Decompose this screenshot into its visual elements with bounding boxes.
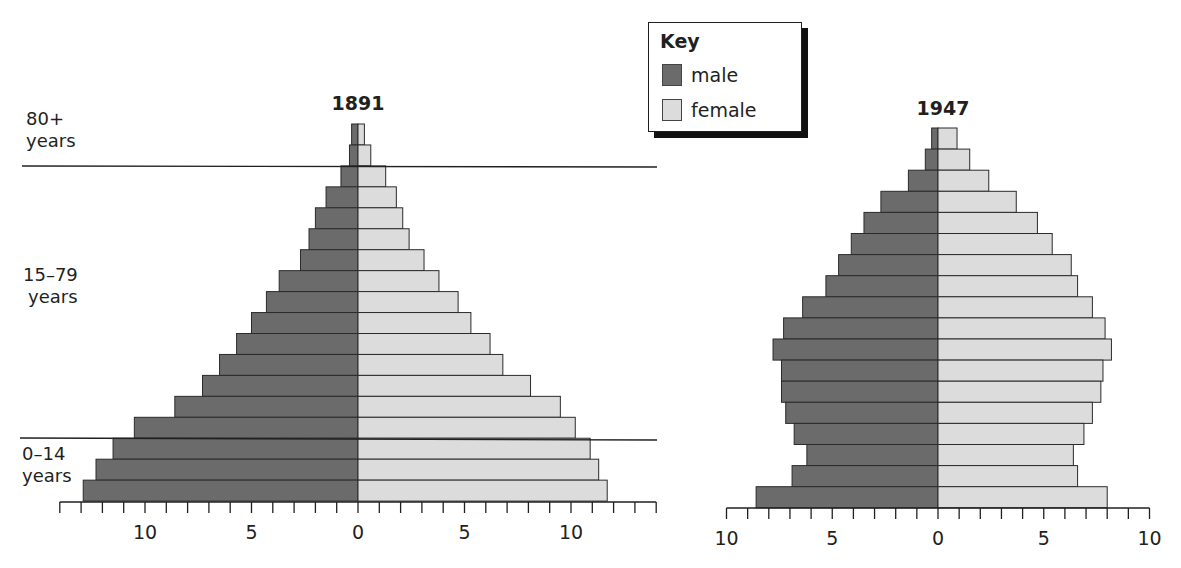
age-band-range: 15–79: [23, 264, 78, 286]
legend-label: female: [691, 99, 757, 121]
male-bar: [252, 313, 359, 334]
male-bar: [309, 229, 358, 250]
male-bar: [908, 170, 938, 191]
male-bar: [134, 417, 358, 438]
female-swatch-icon: [662, 99, 682, 121]
male-bar: [315, 208, 358, 229]
female-bar: [938, 487, 1107, 508]
legend-title: Key: [660, 30, 700, 52]
x-axis-tick-label: 10: [1137, 527, 1161, 549]
female-bar: [358, 229, 409, 250]
male-bar: [300, 250, 358, 271]
age-band-0-14-label: 0–14 years: [22, 443, 72, 487]
female-bar: [358, 334, 490, 355]
male-bar: [803, 297, 938, 318]
x-axis-tick-label: 0: [352, 521, 364, 543]
male-bar: [925, 149, 938, 170]
female-bar: [358, 354, 503, 375]
x-axis-tick-label: 10: [714, 527, 738, 549]
male-swatch-icon: [662, 64, 682, 86]
male-bar: [773, 339, 938, 360]
female-bar: [358, 417, 575, 438]
female-bar: [938, 149, 970, 170]
age-band-unit: years: [23, 286, 78, 308]
age-band-range: 0–14: [22, 443, 72, 465]
x-axis-tick-label: 5: [245, 521, 257, 543]
female-bar: [938, 170, 989, 191]
female-bar: [938, 234, 1052, 255]
x-axis-tick-label: 0: [932, 527, 944, 549]
pyramid-1891: 18911050510: [20, 92, 657, 543]
female-bar: [358, 271, 439, 292]
male-bar: [326, 187, 358, 208]
male-bar: [237, 334, 358, 355]
female-bar: [938, 212, 1037, 233]
female-bar: [358, 124, 364, 145]
female-bar: [358, 375, 531, 396]
male-bar: [784, 318, 938, 339]
male-bar: [83, 480, 358, 501]
female-bar: [358, 166, 386, 187]
male-bar: [864, 212, 938, 233]
male-bar: [96, 459, 358, 480]
age-band-range: 80+: [26, 108, 76, 130]
male-bar: [839, 255, 938, 276]
male-bar: [756, 487, 938, 508]
age-band-unit: years: [22, 465, 72, 487]
age-band-80plus-label: 80+ years: [26, 108, 76, 152]
x-axis-tick-label: 5: [826, 527, 838, 549]
male-bar: [279, 271, 358, 292]
male-bar: [220, 354, 358, 375]
male-bar: [349, 145, 358, 166]
female-bar: [938, 381, 1101, 402]
x-axis-tick-label: 10: [133, 521, 157, 543]
band-separator-80plus: [22, 166, 657, 167]
female-bar: [358, 438, 590, 459]
male-bar: [792, 466, 938, 487]
legend-item-male: male: [662, 63, 738, 87]
female-bar: [938, 255, 1071, 276]
male-bar: [266, 292, 358, 313]
female-bar: [938, 360, 1103, 381]
x-axis-tick-label: 10: [559, 521, 583, 543]
female-bar: [938, 423, 1084, 444]
male-bar: [786, 402, 938, 423]
female-bar: [938, 128, 957, 149]
legend-key: Key male female: [648, 22, 802, 132]
female-bar: [938, 276, 1078, 297]
male-bar: [781, 360, 938, 381]
pyramid-1947: 19471050510: [714, 97, 1161, 549]
male-bar: [113, 438, 358, 459]
pyramid-charts-canvas: 18911050510 19471050510: [0, 0, 1181, 568]
chart-title: 1947: [917, 97, 970, 119]
legend-label: male: [691, 64, 738, 86]
x-axis-tick-label: 5: [458, 521, 470, 543]
male-bar: [203, 375, 358, 396]
male-bar: [851, 234, 938, 255]
chart-title: 1891: [332, 92, 385, 114]
female-bar: [358, 250, 424, 271]
male-bar: [341, 166, 358, 187]
male-bar: [807, 445, 938, 466]
population-pyramids-figure: 18911050510 19471050510 80+ years 15–79 …: [0, 0, 1181, 568]
female-bar: [358, 480, 607, 501]
male-bar: [794, 423, 938, 444]
female-bar: [358, 459, 599, 480]
female-bar: [358, 292, 458, 313]
female-bar: [938, 445, 1073, 466]
female-bar: [938, 297, 1092, 318]
female-bar: [358, 187, 396, 208]
x-axis-tick-label: 5: [1038, 527, 1050, 549]
female-bar: [358, 208, 403, 229]
legend-item-female: female: [662, 98, 757, 122]
female-bar: [938, 191, 1016, 212]
male-bar: [175, 396, 358, 417]
female-bar: [938, 466, 1078, 487]
age-band-unit: years: [26, 130, 76, 152]
male-bar: [826, 276, 938, 297]
female-bar: [358, 313, 471, 334]
male-bar: [781, 381, 938, 402]
female-bar: [938, 402, 1092, 423]
female-bar: [938, 339, 1111, 360]
male-bar: [352, 124, 358, 145]
